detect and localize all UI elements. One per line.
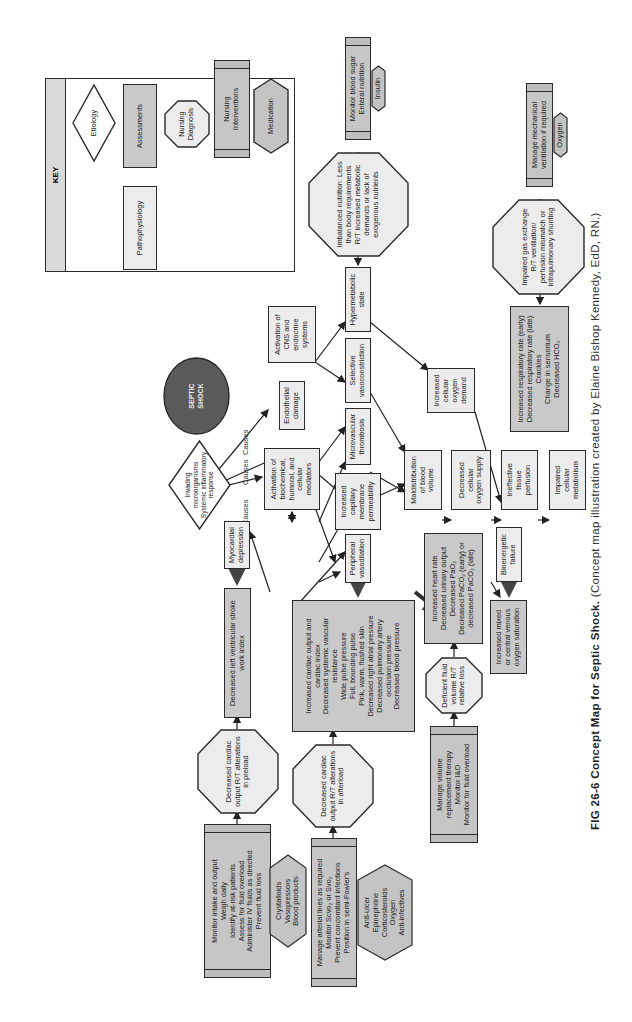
medication-insulin: Insulin (371, 65, 386, 112)
intervention-blood-sugar: Monitor blood sugar Enteral nutrition (345, 37, 371, 140)
assessment-mixed-venous: Increased mixed or central venous oxygen… (490, 600, 527, 674)
activation-cns: Activation of CNS and endocrine systems (268, 306, 316, 363)
medication-drugs: Anti-ulcer Epinephrine Corticosteroids O… (357, 864, 413, 961)
legend-title: KEY (46, 79, 66, 271)
intervention-ventilation: Manage mechanical ventilation if require… (526, 83, 553, 187)
assessment-heart-rate: Increased heart rate Decreased urinary o… (424, 533, 483, 644)
caption-credit: (Concept map illustration created by Ela… (589, 212, 601, 600)
medication-fluids: Crystalloids Vasopressors Blood products (269, 854, 307, 948)
microvascular-thrombosis: Microvascular thrombosis (345, 408, 371, 465)
medication-oxygen: Oxygen (553, 112, 568, 158)
diagnosis-preload: Decreased cardiac output R/T alterations… (197, 729, 279, 814)
caption-label: FIG 26-6 Concept Map for Septic Shock. (589, 601, 601, 830)
legend-medication: Medication (253, 78, 289, 154)
diagnosis-afterload: Decreased cardiac output R/T alterations… (292, 744, 374, 828)
causes-label-2: Causes (241, 460, 250, 485)
concept-map: KEY Etiology Assessments Pathophysiology… (0, 0, 632, 1022)
increased-capillary-permeability: Increased capillary membrane permeabilit… (335, 473, 381, 530)
selective-vasoconstriction: Selective vasoconstriction (345, 338, 371, 403)
intervention-arterial-lines: Manage arterial lines as required Monito… (311, 838, 357, 987)
legend-etiology: Etiology (72, 84, 116, 162)
impaired-cellular-metabolism: Impaired cellular metabolism (549, 450, 586, 510)
etiology-invading-microorganisms: Invading microorganisms Systemic inflamm… (168, 440, 231, 530)
causes-label-3: Causes (241, 430, 250, 455)
septic-shock-title: SEPTIC SHOCK (163, 357, 230, 435)
decreased-oxygen-supply: Decreased cellular oxygen supply (451, 450, 491, 510)
peripheral-vasodilation: Peripheral vasodilation (345, 534, 371, 583)
hypermetabolic-state: Hypermetabolic state (345, 267, 371, 332)
assessment-lvswi: Decreased left ventricular stroke work i… (224, 588, 251, 718)
diagnosis-deficient-fluid: Deficient fluid volume R/T relative loss (425, 657, 483, 714)
myocardial-depression: Myocardial depression (224, 521, 250, 569)
increased-oxygen-demand: Increased cellular oxygen demand (427, 368, 475, 413)
intervention-intake-output: Monitor intake and output Weigh daily Id… (204, 824, 271, 978)
assessment-cardiac-output: Increased cardiac output and cardiac ind… (292, 600, 415, 732)
assessment-respiratory: Increased respiratory rate (early) Decre… (510, 306, 569, 432)
diagnosis-impaired-gas-exchange: Impaired gas exchange R/T ventilation/ p… (492, 199, 585, 295)
bioenergetic-failure: Bioenergetic failure (496, 527, 522, 582)
diagnosis-imbalanced-nutrition: Imbalanced nutrition: Less than body req… (308, 152, 409, 257)
legend-assessments: Assessments (123, 84, 157, 168)
maldistribution-blood-volume: Maldistribution of blood volume (404, 450, 442, 510)
figure-caption: FIG 26-6 Concept Map for Septic Shock. (… (589, 212, 601, 830)
intervention-volume-replacement: Manage volume replacement therapy Monito… (430, 726, 478, 843)
legend-nursing-diagnosis: Nursing Diagnosis (164, 100, 210, 148)
endothelial-damage: Endothelial damage (279, 381, 305, 430)
ineffective-tissue-perfusion: Ineffective tissue perfusion (501, 450, 538, 510)
legend-pathophysiology: Pathophysiology (123, 186, 157, 270)
activation-mediators: Activation of biochemical, humoral, and … (264, 448, 320, 510)
legend-nursing-interventions: Nursing Interventions (214, 60, 250, 158)
